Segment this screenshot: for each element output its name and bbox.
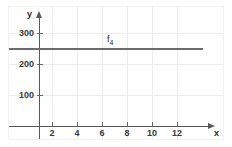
x-tick-label-2: 2 bbox=[42, 128, 62, 138]
y-axis bbox=[39, 17, 40, 140]
series-line-f4 bbox=[9, 48, 203, 50]
series-label-f4: f4 bbox=[107, 34, 113, 46]
y-tick-label-200: 200 bbox=[10, 59, 34, 69]
x-tick-2 bbox=[52, 122, 53, 127]
y-tick-label-100: 100 bbox=[10, 90, 34, 100]
gridline-vertical-10 bbox=[152, 7, 153, 139]
y-tick-200 bbox=[37, 64, 43, 65]
y-tick-100 bbox=[37, 95, 43, 96]
x-axis-label: x bbox=[214, 128, 219, 138]
y-axis-arrow-icon bbox=[36, 11, 42, 18]
gridline-vertical-2 bbox=[52, 7, 53, 139]
gridline-vertical-4 bbox=[77, 7, 78, 139]
series-label-f4-subscript: 4 bbox=[110, 39, 114, 46]
gridline-vertical-8 bbox=[127, 7, 128, 139]
x-tick-label-10: 10 bbox=[142, 128, 162, 138]
x-tick-label-8: 8 bbox=[117, 128, 137, 138]
x-tick-6 bbox=[102, 122, 103, 127]
x-tick-10 bbox=[152, 122, 153, 127]
plot-area: 2 4 6 8 10 12 300 200 100 x y f4 bbox=[8, 6, 224, 140]
y-tick-label-300: 300 bbox=[10, 28, 34, 38]
y-axis-label: y bbox=[27, 9, 32, 19]
x-tick-8 bbox=[127, 122, 128, 127]
x-tick-label-4: 4 bbox=[67, 128, 87, 138]
gridline-vertical-12 bbox=[177, 7, 178, 139]
gridline-vertical-6 bbox=[102, 7, 103, 139]
y-tick-300 bbox=[37, 33, 43, 34]
x-tick-4 bbox=[77, 122, 78, 127]
chart-figure: 2 4 6 8 10 12 300 200 100 x y f4 bbox=[0, 0, 232, 147]
x-tick-label-12: 12 bbox=[167, 128, 187, 138]
x-tick-12 bbox=[177, 122, 178, 127]
x-tick-label-6: 6 bbox=[92, 128, 112, 138]
